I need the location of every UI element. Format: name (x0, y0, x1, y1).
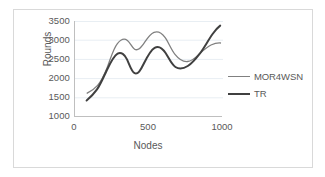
line-chart-figure: 3500 3000 2500 2000 1500 1000 0 500 1000… (0, 0, 325, 177)
plot-area (74, 21, 222, 117)
x-axis-tick-labels: 0 500 1000 (0, 121, 325, 135)
x-tick-1000: 1000 (202, 121, 242, 132)
series-line-mor4wsn (87, 32, 220, 93)
y-tick-1500: 1500 (36, 92, 70, 102)
x-axis-title: Nodes (74, 140, 222, 151)
legend-label-tr: TR (254, 88, 266, 99)
legend-label-mor4wsn: MOR4WSN (254, 71, 303, 82)
y-axis-title: Rounds (42, 19, 56, 79)
legend-swatch-mor4wsn (228, 76, 250, 77)
chart-legend: MOR4WSN TR (228, 68, 310, 102)
y-tick-1000: 1000 (36, 111, 70, 121)
legend-item-mor4wsn: MOR4WSN (228, 68, 310, 85)
x-tick-500: 500 (128, 121, 168, 132)
series-line-tr (87, 26, 221, 101)
plot-svg (75, 21, 223, 117)
x-tick-0: 0 (54, 121, 94, 132)
legend-swatch-tr (228, 93, 250, 95)
legend-item-tr: TR (228, 85, 310, 102)
